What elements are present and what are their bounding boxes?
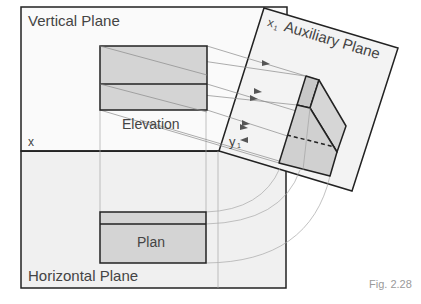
x-label: x bbox=[28, 135, 34, 149]
y1-label: y bbox=[229, 134, 236, 149]
elevation-label: Elevation bbox=[122, 116, 180, 132]
auxiliary-projection-diagram: Vertical Plane Elevation x Plan Horizont… bbox=[0, 0, 421, 304]
figure-caption: Fig. 2.28 bbox=[369, 278, 412, 290]
elevation-view bbox=[100, 46, 207, 112]
plan-label: Plan bbox=[137, 234, 165, 250]
horizontal-plane-label: Horizontal Plane bbox=[28, 267, 138, 284]
vertical-plane-label: Vertical Plane bbox=[28, 12, 120, 29]
y1-subscript: 1 bbox=[237, 142, 241, 149]
